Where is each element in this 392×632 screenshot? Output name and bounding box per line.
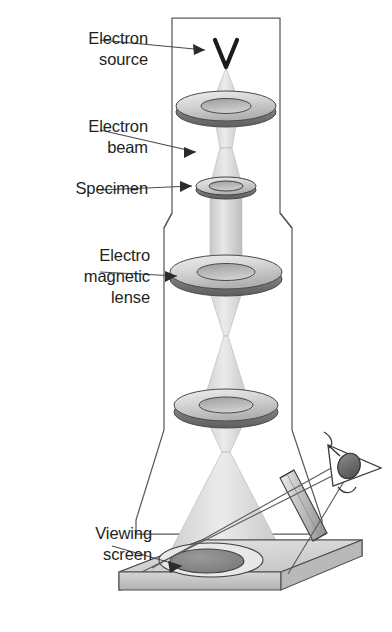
label-electromagnetic-lens: Electro magnetic lense: [0, 245, 150, 308]
observer-eye: [324, 432, 381, 493]
electromagnetic-lens-2: [170, 255, 282, 296]
label-electron-source: Electron source: [0, 28, 148, 70]
label-electron-beam: Electron beam: [0, 116, 148, 158]
specimen-holder: [196, 177, 256, 199]
eye-lower-lash: [338, 487, 356, 493]
label-viewing-screen: Viewing screen: [0, 523, 152, 565]
electromagnetic-lens-3: [174, 389, 278, 428]
label-specimen: Specimen: [0, 178, 148, 199]
electromagnetic-lens-1: [176, 91, 276, 127]
